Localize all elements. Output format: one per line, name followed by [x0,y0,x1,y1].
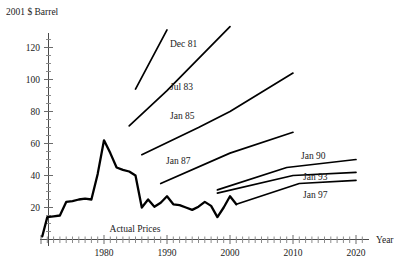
series-dec-81 [136,30,168,89]
y-axis-title: 2001 $ Barrel [6,7,59,17]
label-jan-85: Jan 85 [170,111,195,121]
oil-price-forecast-chart: 2001 $ Barrel [0,0,412,275]
label-dec-81: Dec 81 [170,39,197,49]
x-tick-label-1980: 1980 [95,248,114,258]
label-jan-97: Jan 97 [303,190,328,200]
label-jul-83: Jul 83 [170,82,193,92]
chart-canvas: 2001 $ Barrel [0,0,412,275]
series-jan-90 [217,160,356,190]
y-tick-label-40: 40 [31,171,41,181]
x-tick-label-1990: 1990 [158,248,177,258]
x-tick-label-2000: 2000 [221,248,240,258]
y-tick-label-20: 20 [31,203,41,213]
label-jan-87: Jan 87 [166,156,191,166]
series-actual-prices [42,140,236,236]
x-tick-label-2020: 2020 [347,248,366,258]
label-jan-93: Jan 93 [303,172,328,182]
y-tick-label-120: 120 [26,43,41,53]
y-tick-label-60: 60 [31,139,41,149]
y-tick-label-100: 100 [26,75,41,85]
label-actual-prices: Actual Prices [110,224,161,234]
label-jan-90: Jan 90 [301,151,326,161]
series-jan-85 [142,73,293,155]
y-tick-label-80: 80 [31,107,41,117]
series-layer [42,27,356,237]
x-tick-label-2010: 2010 [284,248,303,258]
x-axis-title: Year [376,235,394,245]
